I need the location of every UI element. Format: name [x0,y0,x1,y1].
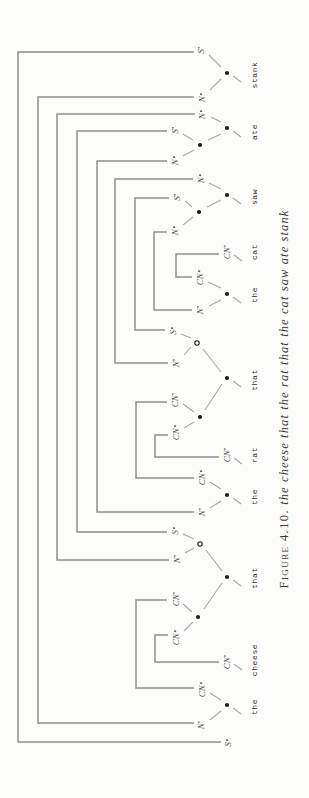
node-dot-filled [196,615,200,619]
node-dot-filled [225,292,229,296]
category-leaf-stank-S: S• [195,46,207,53]
category-leaf-ate-N-obj: N∘ [196,109,208,120]
word-label: the [250,699,259,715]
word-label: ate [250,124,259,140]
node-dot-filled [198,143,202,147]
tree-edge [211,117,221,122]
axiom-link-S-that3--S-ate [77,131,167,532]
rotated-figure-container: S∘N•CN∘CN•CN∘CN•N•S∘N•CN∘CN•CN∘CN•N•S∘N•… [0,0,309,798]
axiom-link-N-the7--N-saw [154,232,192,310]
node-dot-filled [225,71,229,75]
category-leaf-saw-N-subj: N∘ [169,225,181,236]
node-dot-open [198,542,202,546]
tree-edge [206,550,222,571]
category-leaf-saw-N-obj: N∘ [195,173,207,184]
category-leaf-rat-CN: CN• [221,448,233,463]
category-leaf-that3-S: S∘ [169,526,181,535]
node-dot-open [195,341,199,345]
category-leaf-cheese-CN: CN• [221,655,233,670]
word-stem [233,198,241,204]
axiom-link-CN-rat--CN-that6 [155,435,219,457]
scanned-figure-page: S∘N•CN∘CN•CN∘CN•N•S∘N•CN∘CN•CN∘CN•N•S∘N•… [0,0,309,798]
category-leaf-the1-N: N• [195,721,207,731]
category-leaf-that6-S: S∘ [167,326,179,335]
tree-edge [183,134,193,140]
tree-edge [183,150,194,156]
tree-edge [209,183,221,189]
tree-edge [208,282,221,288]
category-leaf-that6-CN-val: CN• [169,393,181,408]
word-label: cheese [250,644,259,676]
category-leaf-stank-N: N∘ [196,92,208,103]
axiom-link-CN-cheese--CN-that3 [155,635,219,662]
tree-edge [210,79,221,90]
tree-edge [210,711,221,720]
word-label: stank [250,61,259,88]
node-dot-filled [225,575,229,579]
word-label: cat [250,244,259,260]
tree-edge [181,334,191,338]
tree-edge [183,534,194,539]
node-dot-filled [225,703,229,707]
word-label: that [250,567,259,589]
tree-edge [208,134,221,140]
word-stem [234,458,242,464]
word-stem [233,381,241,387]
figure-caption: Figure 4.10. the cheese that the rat tha… [277,0,292,798]
tree-edge [207,200,221,207]
tree-edge [185,201,192,207]
figure-caption-sentence: the cheese that the rat that the cat saw… [277,210,291,505]
tree-edge [210,693,221,700]
word-stem [233,76,241,82]
tree-edge [204,583,222,609]
figure-caption-label: Figure 4.10. [277,509,291,588]
axiom-link-CN-the4--CN-that6 [136,402,194,478]
category-leaf-goal-S: S∘ [222,738,234,747]
category-leaf-ate-N-subj: N∘ [169,155,181,166]
tree-edge [205,384,222,410]
word-stem [233,708,241,714]
category-leaf-that6-CN-arg: CN∘ [170,424,182,440]
tree-edge [184,347,191,355]
tree-edge [184,422,194,428]
category-leaf-that3-CN-val: CN• [170,592,182,607]
proof-net-svg: S∘N•CN∘CN•CN∘CN•N•S∘N•CN∘CN•CN∘CN•N•S∘N•… [0,0,309,798]
tree-edge [209,300,221,306]
word-stem [233,580,241,586]
category-leaf-the4-CN: CN∘ [196,469,208,485]
category-leaf-ate-S: S• [169,126,181,133]
tree-edge [210,501,221,508]
word-label: the [250,489,259,505]
node-dot-filled [198,415,202,419]
word-label: rat [250,447,259,463]
word-stem [233,498,241,504]
axiom-link-N-the4--N-ate [97,161,194,512]
word-stem [233,297,241,303]
node-dot-filled [225,376,229,380]
axiom-link-S-goal--S-stank [18,52,221,742]
category-leaf-saw-S: S• [171,193,183,200]
word-label: that [250,369,259,391]
axiom-link-CN-the1--CN-that3 [136,600,194,688]
word-stem [234,255,242,261]
tree-edge [209,55,221,67]
word-stem [234,664,242,670]
tree-edge [183,604,192,612]
word-stem [233,131,241,137]
category-leaf-that6-N: N• [170,359,182,369]
tree-edge [203,349,221,372]
tree-edge [183,404,194,412]
category-leaf-the1-CN: CN∘ [196,681,208,697]
category-leaf-cat-CN: CN• [221,245,233,260]
tree-edge [185,548,194,553]
category-leaf-the4-N: N• [196,508,208,518]
node-dot-filled [225,493,229,497]
word-label: saw [250,189,259,205]
node-dot-filled [225,193,229,197]
word-label: the [250,287,259,303]
category-leaf-that3-N: N• [171,555,183,565]
tree-edge [184,622,193,631]
node-dot-filled [225,126,229,130]
node-dot-filled [197,210,201,214]
category-leaf-the7-N: N• [194,306,206,316]
